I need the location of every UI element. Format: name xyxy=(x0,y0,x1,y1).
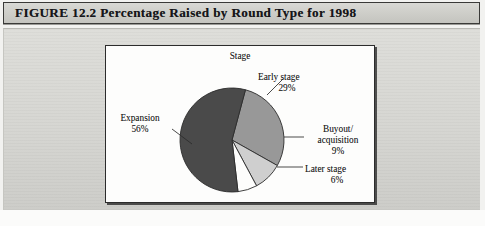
pie-label-expansion-value: 56% xyxy=(106,124,174,135)
pie-label-buyout-acquisition: Buyout/ acquisition 9% xyxy=(305,124,371,157)
pie-label-buyout-value: 9% xyxy=(305,146,371,157)
pie-label-early-stage-name: Early stage xyxy=(258,72,324,83)
pie-label-buyout-line1: Buyout/ xyxy=(305,124,371,135)
pie-label-early-stage: Early stage 29% xyxy=(258,72,324,94)
pie-label-later-stage-value: 6% xyxy=(305,175,369,186)
pie-label-buyout-line2: acquisition xyxy=(305,135,371,146)
pie-chart xyxy=(0,0,485,226)
pie-label-later-stage-name: Later stage xyxy=(305,164,375,175)
pie-label-early-stage-value: 29% xyxy=(258,83,316,94)
pie-label-expansion: Expansion 56% xyxy=(106,113,174,135)
pie-label-stage: Stage xyxy=(210,51,270,62)
pie-slices xyxy=(180,88,284,192)
scanned-page: FIGURE 12.2 Percentage Raised by Round T… xyxy=(0,0,485,226)
footnote-cropped xyxy=(5,216,305,226)
pie-label-expansion-name: Expansion xyxy=(106,113,174,124)
pie-label-later-stage: Later stage 6% xyxy=(305,164,375,186)
